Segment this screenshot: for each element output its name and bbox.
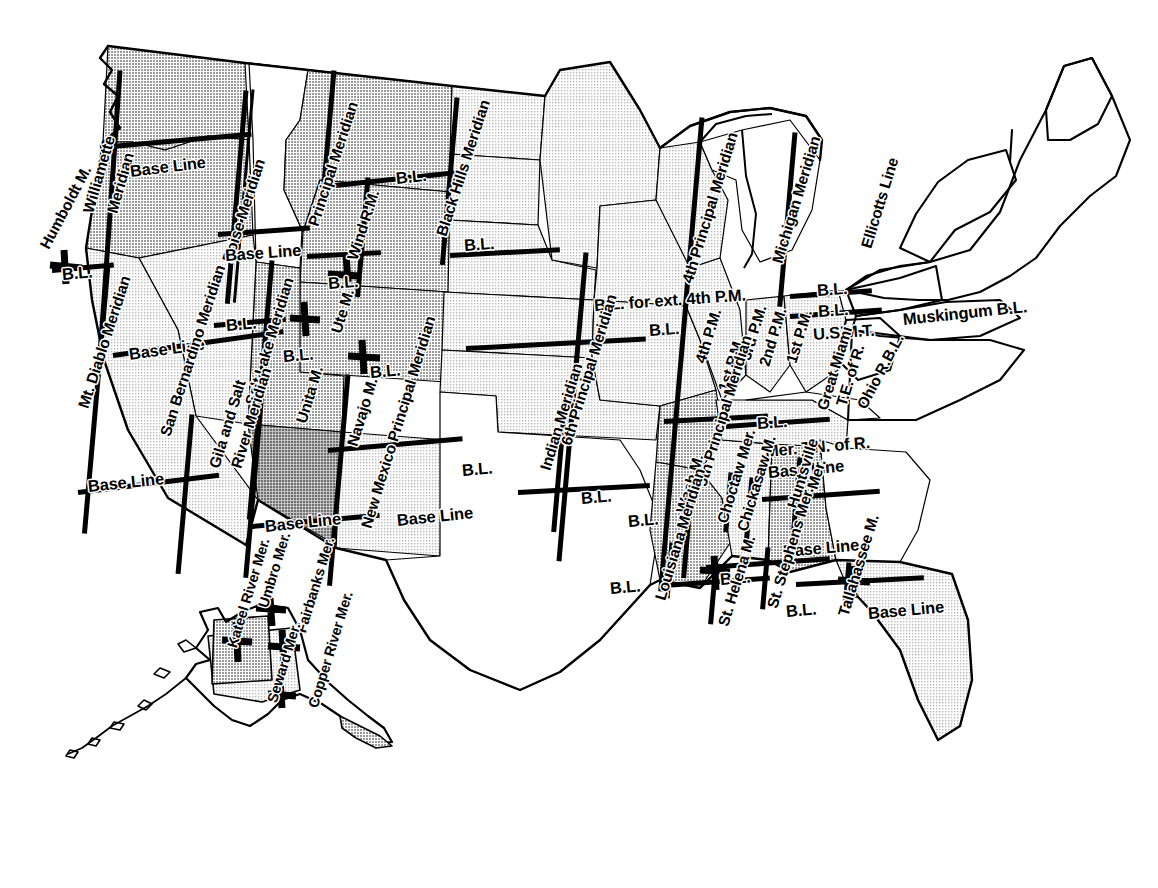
state-newyork [900,150,1016,262]
map-label-bl-nm-east: B.L. [461,459,493,478]
map-label-bl-mt-north: B.L. [395,167,427,187]
map-label-bl-ut-west: B.L. [225,314,257,333]
map-label-bl-tx: B.L. [609,577,641,596]
map-label-bl-mi-1: B.L. [816,280,847,299]
alaska-islands [66,640,196,758]
us-map-graphic [0,0,1158,888]
map-label-bl-ca-north: B.L. [61,263,93,282]
great-lakes-erie [846,262,930,290]
map-label-bl-mi-2: B.L. [817,301,848,320]
map-label-bl-ia: B.L. [648,320,679,339]
maine-nh-vt [1046,58,1112,140]
map-label-bl-ok: B.L. [580,487,612,506]
map-label-bl-fl-west: B.L. [785,600,817,619]
map-canvas: Humboldt M.WilliametteMeridianBase LineB… [0,0,1158,888]
ny-vt-line [1010,130,1012,162]
alaska-panhandle [340,716,392,748]
map-label-bl-ok-south: B.L. [627,510,659,529]
map-label-bl-sd: B.L. [463,235,494,254]
map-label-bl-ut: B.L. [282,345,314,364]
map-label-bl-in: B.L. [756,413,787,432]
aleutian-chain [68,678,186,754]
